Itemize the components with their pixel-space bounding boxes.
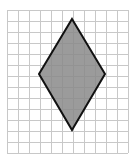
grid-diagram [0, 0, 137, 158]
